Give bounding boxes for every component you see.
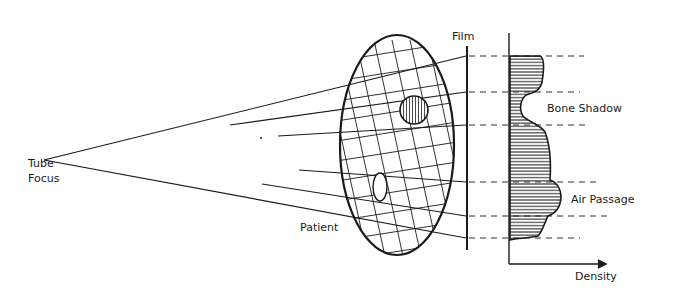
density-profile [510,56,561,240]
bone-shadow-label: Bone Shadow [547,102,622,115]
ray-3 [278,125,466,136]
tube-focus-label: Tube [27,157,54,170]
ray-5 [262,184,466,216]
stray-dot [260,137,262,139]
patient-body [302,35,478,282]
bone-region [400,96,428,124]
air-passage-region [373,173,387,201]
tube-focus-label-2: Focus [28,172,60,185]
x-ray-density-diagram: Tube Focus Film Patient Bone Shadow Air … [0,0,674,296]
film-label: Film [452,30,474,43]
arrow-right-icon [598,260,606,268]
density-label: Density [575,270,617,283]
ray-2 [230,92,466,125]
patient-label: Patient [300,221,339,234]
air-passage-label: Air Passage [571,193,635,206]
